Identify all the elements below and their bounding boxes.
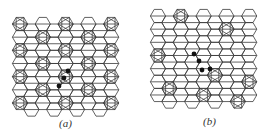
defect-dot <box>208 67 213 72</box>
defect-dot <box>197 59 202 64</box>
defect-dot <box>200 68 205 73</box>
defect-dot <box>192 52 197 57</box>
panel-a-lattice <box>12 17 118 116</box>
panel-b-lattice <box>150 9 256 108</box>
lattice-figure <box>0 0 279 136</box>
defect-dot <box>62 76 67 81</box>
defect-dot <box>66 69 71 74</box>
defect-dot <box>57 84 62 89</box>
panel-b-label: (b) <box>203 115 216 127</box>
panel-a-label: (a) <box>59 117 72 129</box>
